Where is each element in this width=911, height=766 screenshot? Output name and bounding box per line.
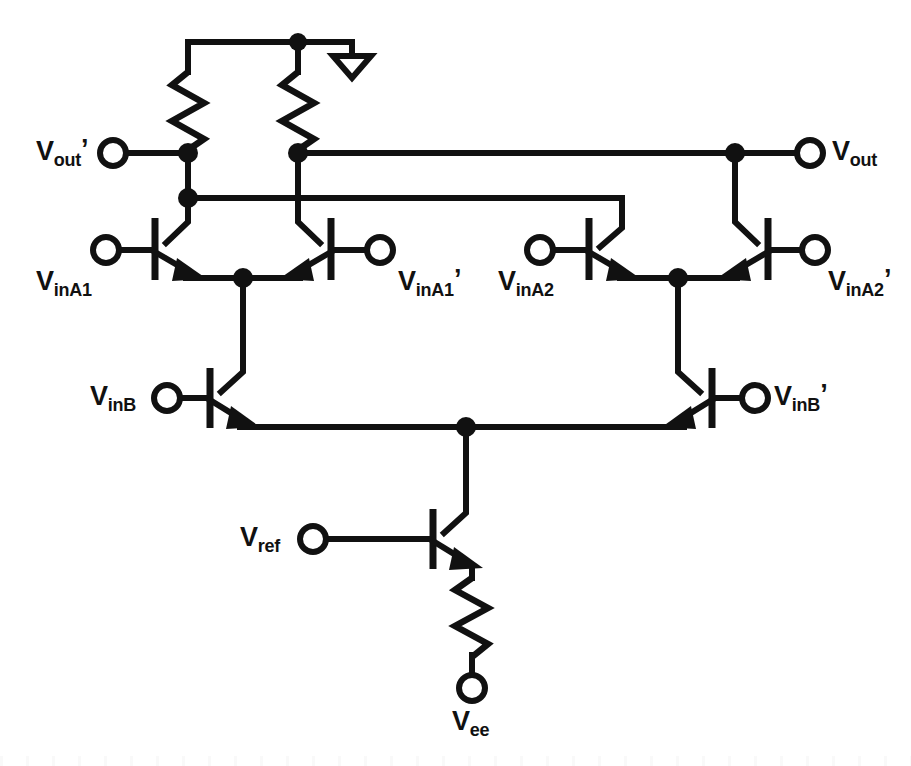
emitter-node-B: [240, 417, 684, 533]
label-vee: Vee: [452, 708, 489, 735]
terminal-vinA1-prime[interactable]: [367, 237, 393, 263]
ground-rail-group: [188, 33, 371, 78]
resistor-zigzag-left: [172, 72, 204, 150]
label-vref: Vref: [240, 524, 280, 551]
transistor-Q6: [662, 368, 768, 429]
terminal-vout[interactable]: [797, 140, 823, 166]
circuit-schematic: Vout’ Vout VinA1 VinA1’ VinA2 VinA2’ Vin…: [0, 0, 911, 766]
label-vout: Vout: [832, 138, 877, 165]
terminal-vinA2-prime[interactable]: [802, 237, 828, 263]
terminal-vref[interactable]: [300, 526, 326, 552]
emitter-node-A1: [186, 268, 300, 392]
transistor-Q4: [716, 218, 828, 281]
terminal-vinB[interactable]: [154, 385, 180, 411]
label-vinA1-prime: VinA1’: [398, 268, 461, 295]
terminal-vinA1[interactable]: [93, 237, 119, 263]
label-vinA2: VinA2: [498, 268, 554, 295]
resistor-zigzag-bias: [455, 578, 488, 657]
terminal-vout-prime[interactable]: [100, 140, 126, 166]
terminal-vinB-prime[interactable]: [742, 385, 768, 411]
vout-net: [288, 140, 823, 243]
transistor-Q5: [154, 368, 260, 429]
wire-q7-collector: [444, 427, 466, 533]
transistor-Q1: [93, 218, 207, 281]
label-vinB-prime: VinB’: [774, 383, 827, 410]
load-resistor-left: [172, 42, 204, 153]
transistor-Q2: [279, 218, 393, 281]
label-vout-prime: Vout’: [36, 138, 88, 165]
label-vinA2-prime: VinA2’: [828, 268, 891, 295]
ground-icon: [333, 56, 371, 78]
wire-q4-collector: [735, 153, 757, 243]
vout-prime-net: [100, 140, 198, 243]
wire-q6-collector: [678, 278, 700, 392]
emitter-degeneration-resistor: [455, 568, 488, 701]
load-resistor-right: [282, 42, 314, 153]
emitter-node-A2: [620, 268, 737, 392]
transistor-Q7: [300, 509, 483, 570]
resistor-zigzag-right: [282, 72, 314, 150]
crosslink-rail: [188, 198, 622, 247]
label-vinB: VinB: [90, 383, 136, 410]
wire-crosslink-to-q3: [188, 198, 622, 247]
terminal-vee[interactable]: [459, 675, 485, 701]
terminal-vinA2[interactable]: [527, 237, 553, 263]
q7-emitter-arrow: [449, 547, 483, 570]
wire-q5-collector: [221, 278, 243, 392]
label-vinA1: VinA1: [36, 268, 92, 295]
